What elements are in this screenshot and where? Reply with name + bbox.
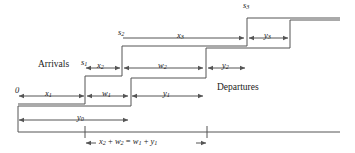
origin-label: 0 <box>15 86 19 95</box>
equation-label: x2 + w2 = w1 + y1 <box>99 137 157 146</box>
label-w2: w2 <box>158 61 167 70</box>
departures-label: Departures <box>217 83 259 93</box>
time-axis <box>18 126 340 138</box>
label-w1: w1 <box>102 89 111 98</box>
label-x2: x2 <box>97 61 104 70</box>
label-x3: x3 <box>177 31 184 40</box>
label-s3: s3 <box>243 1 249 10</box>
label-x1: x1 <box>45 89 52 98</box>
arrivals-label: Arrivals <box>38 60 69 70</box>
diagram-canvas <box>0 0 355 153</box>
label-y1: y1 <box>163 89 170 98</box>
label-y3: y3 <box>264 31 271 40</box>
label-s1: s1 <box>81 58 87 67</box>
label-y0: y0 <box>77 113 84 122</box>
queueing-diagram-figure: Arrivals Departures 0 s1 s2 s3 x1 x2 x3 … <box>0 0 355 153</box>
label-y2: y2 <box>222 61 229 70</box>
label-s2: s2 <box>118 28 124 37</box>
